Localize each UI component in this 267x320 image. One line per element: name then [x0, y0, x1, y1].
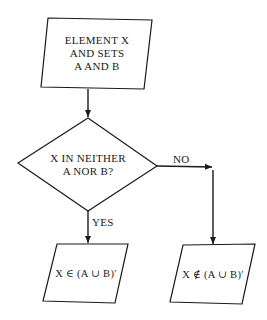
yes-result-label: X ∈ (A ∪ B)′ — [45, 267, 127, 280]
decision-line-2: A NOR B? — [38, 165, 138, 178]
edge-label-no: NO — [173, 153, 190, 166]
arrow-no-horizontal — [157, 166, 212, 167]
decision-label: X IN NEITHER A NOR B? — [38, 152, 138, 178]
start-line-3: A AND B — [52, 60, 142, 73]
edge-label-yes: YES — [92, 216, 114, 229]
start-line-1: ELEMENT X — [52, 34, 142, 47]
start-label: ELEMENT X AND SETS A AND B — [52, 34, 142, 73]
decision-line-1: X IN NEITHER — [38, 152, 138, 165]
start-line-2: AND SETS — [52, 47, 142, 60]
no-result-label: X ∉ (A ∪ B)′ — [172, 268, 254, 281]
